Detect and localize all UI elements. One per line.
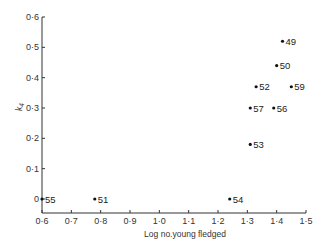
- svg-text:k4: k4: [14, 103, 25, 111]
- point-marker: [255, 85, 258, 88]
- y-tick-label: 0·6: [26, 12, 39, 22]
- scatter-chart: 0·60·70·80·91·01·11·21·31·41·5 00·10·20·…: [0, 0, 327, 250]
- data-point: 53: [249, 139, 264, 150]
- data-point: 55: [40, 194, 55, 205]
- y-tick-label: 0·3: [26, 103, 39, 113]
- data-point: 59: [290, 81, 305, 92]
- point-marker: [40, 197, 43, 200]
- x-tick-label: 0·6: [35, 216, 48, 226]
- data-point: 56: [272, 103, 287, 114]
- data-point: 50: [275, 60, 290, 71]
- x-tick-label: 1·5: [299, 216, 312, 226]
- point-label: 51: [98, 194, 109, 205]
- x-tick-label: 0·7: [65, 216, 78, 226]
- data-point: 54: [228, 194, 243, 205]
- x-tick-label: 1·3: [241, 216, 254, 226]
- point-label: 59: [294, 81, 305, 92]
- x-tick-label: 1·2: [211, 216, 224, 226]
- data-point: 51: [93, 194, 108, 205]
- x-tick-label: 1·4: [270, 216, 283, 226]
- x-axis-label: Log no.young fledged: [144, 229, 226, 239]
- x-tick-label: 1·0: [153, 216, 166, 226]
- point-label: 53: [253, 139, 264, 150]
- data-point: 49: [281, 36, 296, 47]
- x-tick-label: 0·8: [94, 216, 107, 226]
- y-tick-label: 0: [34, 194, 39, 204]
- y-tick-label: 0·1: [26, 164, 39, 174]
- x-tick-label: 1·1: [182, 216, 195, 226]
- point-label: 56: [277, 103, 288, 114]
- y-tick-label: 0·5: [26, 42, 39, 52]
- point-marker: [249, 143, 252, 146]
- point-marker: [249, 106, 252, 109]
- point-label: 55: [45, 194, 56, 205]
- point-label: 52: [259, 81, 270, 92]
- point-label: 50: [280, 60, 291, 71]
- y-tick-label: 0·4: [26, 73, 39, 83]
- point-marker: [275, 64, 278, 67]
- point-marker: [93, 197, 96, 200]
- data-point: 57: [249, 103, 264, 114]
- data-point: 52: [255, 81, 270, 92]
- point-marker: [228, 197, 231, 200]
- point-marker: [281, 40, 284, 43]
- axes: [42, 17, 306, 213]
- point-label: 49: [286, 36, 297, 47]
- point-label: 57: [253, 103, 264, 114]
- point-marker: [272, 106, 275, 109]
- point-marker: [290, 85, 293, 88]
- y-axis-label: k4: [14, 103, 25, 111]
- x-ticks: 0·60·70·80·91·01·11·21·31·41·5: [35, 210, 312, 226]
- point-label: 54: [233, 194, 244, 205]
- data-points: 49505259575653545155: [40, 36, 305, 205]
- x-tick-label: 0·9: [123, 216, 136, 226]
- y-tick-label: 0·2: [26, 133, 39, 143]
